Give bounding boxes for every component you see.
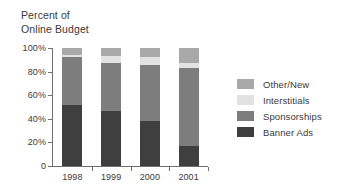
y-axis-tick bbox=[48, 142, 52, 143]
legend-item-label: Sponsorships bbox=[263, 111, 322, 122]
y-axis-tick-label: 40% bbox=[28, 114, 46, 124]
bar-segment-interstitials bbox=[101, 56, 121, 63]
y-axis-tick-label: 20% bbox=[28, 137, 46, 147]
legend-item: Sponsorships bbox=[237, 108, 322, 124]
y-axis-tick bbox=[48, 72, 52, 73]
y-axis-tick bbox=[48, 166, 52, 167]
legend-color-swatch bbox=[237, 111, 254, 121]
bar-segment-sponsorships bbox=[179, 68, 199, 146]
legend-item-label: Interstitials bbox=[263, 95, 310, 106]
chart-title: Percent of Online Budget bbox=[21, 9, 89, 36]
bar-segment-other-new bbox=[179, 48, 199, 63]
y-axis-tick bbox=[48, 48, 52, 49]
x-axis-tick bbox=[169, 167, 170, 171]
y-axis-tick bbox=[48, 119, 52, 120]
bar-1999 bbox=[101, 48, 121, 166]
x-axis-tick bbox=[92, 167, 93, 171]
y-axis-tick-label: 100% bbox=[23, 43, 46, 53]
y-axis-tick-label: 60% bbox=[28, 90, 46, 100]
legend-color-swatch bbox=[237, 127, 254, 137]
bar-2001 bbox=[179, 48, 199, 166]
legend-item: Interstitials bbox=[237, 92, 322, 108]
legend-item-label: Banner Ads bbox=[263, 127, 313, 138]
chart-figure: Percent of Online Budget 020%40%60%80%10… bbox=[0, 0, 346, 193]
bar-segment-sponsorships bbox=[101, 63, 121, 110]
legend-item-label: Other/New bbox=[263, 79, 309, 90]
y-axis-line bbox=[52, 48, 53, 166]
y-axis-tick-label: 80% bbox=[28, 67, 46, 77]
legend-item: Banner Ads bbox=[237, 124, 322, 140]
x-axis-tick-label: 2001 bbox=[178, 172, 198, 182]
x-axis-tick bbox=[131, 167, 132, 171]
legend-item: Other/New bbox=[237, 76, 322, 92]
bar-segment-other-new bbox=[101, 48, 121, 56]
x-axis-tick bbox=[208, 167, 209, 171]
bar-segment-other-new bbox=[62, 48, 82, 55]
bar-segment-sponsorships bbox=[140, 65, 160, 122]
legend-color-swatch bbox=[237, 79, 254, 89]
plot-area: 020%40%60%80%100% 1998199920002001 bbox=[53, 48, 208, 166]
y-axis-tick-label: 0 bbox=[41, 161, 46, 171]
x-axis-tick-label: 1999 bbox=[101, 172, 121, 182]
bar-segment-banner-ads bbox=[101, 111, 121, 166]
chart-legend: Other/NewInterstitialsSponsorshipsBanner… bbox=[237, 76, 322, 140]
bar-segment-banner-ads bbox=[62, 105, 82, 166]
bar-segment-other-new bbox=[140, 48, 160, 57]
x-axis-tick-label: 1998 bbox=[62, 172, 82, 182]
bar-2000 bbox=[140, 48, 160, 166]
bar-1998 bbox=[62, 48, 82, 166]
bar-segment-banner-ads bbox=[140, 121, 160, 166]
x-axis-tick-label: 2000 bbox=[140, 172, 160, 182]
bar-segment-interstitials bbox=[140, 57, 160, 64]
y-axis-tick bbox=[48, 95, 52, 96]
bar-segment-banner-ads bbox=[179, 146, 199, 166]
bar-segment-sponsorships bbox=[62, 57, 82, 104]
legend-color-swatch bbox=[237, 95, 254, 105]
